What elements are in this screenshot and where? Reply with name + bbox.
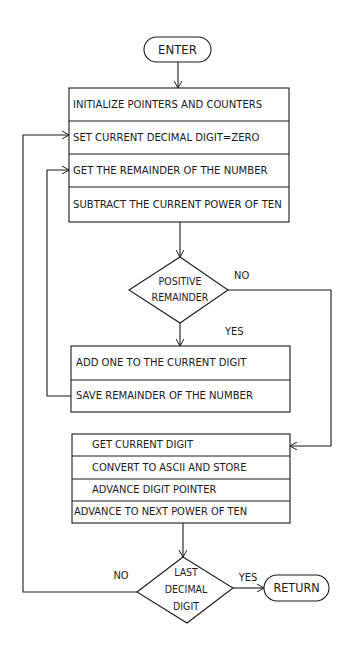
process-step-store-2: CONVERT TO ASCII AND STORE	[92, 461, 246, 474]
process-step-init-2: SET CURRENT DECIMAL DIGIT=ZERO	[73, 131, 259, 144]
process-step-increment-1: ADD ONE TO THE CURRENT DIGIT	[76, 356, 247, 369]
decision2-label-line1: LAST	[174, 566, 198, 578]
decision2-yes-label: YES	[238, 571, 258, 584]
process-step-store-3: ADVANCE DIGIT POINTER	[92, 483, 216, 496]
decision1-label-line1: POSITIVE	[159, 275, 202, 287]
return-label: RETURN	[273, 580, 319, 595]
process-step-increment-2: SAVE REMAINDER OF THE NUMBER	[76, 389, 253, 402]
process-step-init-3: GET THE REMAINDER OF THE NUMBER	[73, 164, 268, 177]
decision2-label-line3: DIGIT	[173, 600, 199, 612]
process-step-init-4: SUBTRACT THE CURRENT POWER OF TEN	[73, 198, 282, 211]
decision1-yes-label: YES	[224, 325, 244, 338]
decision2-no-label: NO	[113, 569, 128, 582]
loop-inner	[47, 170, 71, 396]
decision-positive-remainder	[129, 257, 228, 323]
process-step-store-4: ADVANCE TO NEXT POWER OF TEN	[74, 505, 247, 518]
enter-label: ENTER	[158, 42, 197, 57]
decision1-label-line2: REMAINDER	[152, 291, 209, 303]
flowchart: ENTERINITIALIZE POINTERS AND COUNTERSSET…	[0, 0, 351, 655]
process-step-init-1: INITIALIZE POINTERS AND COUNTERS	[73, 98, 262, 111]
decision2-label-line2: DECIMAL	[165, 583, 208, 595]
decision1-no-label: NO	[234, 269, 249, 282]
process-step-store-1: GET CURRENT DIGIT	[92, 438, 194, 451]
